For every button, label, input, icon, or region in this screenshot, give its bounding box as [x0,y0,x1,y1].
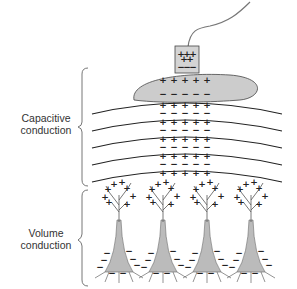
neuron: ++++++++−−−−−−−− [95,177,143,283]
negative-charge: − [108,268,116,278]
negative-charge: − [96,262,104,272]
positive-charge: + [181,75,189,85]
positive-charge: + [181,168,189,178]
negative-charge: − [159,89,167,99]
positive-charge: + [123,199,131,209]
conduction-diagram: +++++−−−+++++−−−−−+++++−−−−−+++++−−−−−++… [0,0,297,289]
neuron: ++++++++−−−−−−−− [139,177,187,283]
negative-charge: − [170,89,178,99]
positive-charge: + [154,179,162,189]
volume-bracket [78,190,88,286]
capacitive-bracket [78,68,88,186]
negative-charge: − [251,268,259,278]
negative-charge: − [163,268,171,278]
negative-charge: − [181,89,189,99]
positive-charge: + [167,199,175,209]
positive-charge: + [192,75,200,85]
positive-charge: + [192,168,200,178]
positive-charge: + [170,168,178,178]
negative-charge: − [192,89,200,99]
neuron: ++++++++−−−−−−−− [227,177,275,283]
negative-charge: − [196,268,204,278]
positive-charge: + [159,75,167,85]
positive-charge: + [237,197,245,207]
positive-charge: + [198,179,206,189]
neuron: ++++++++−−−−−−−− [183,177,231,283]
negative-charge: − [265,260,273,270]
negative-charge: − [207,268,215,278]
positive-charge: + [203,75,211,85]
negative-charge: − [140,262,148,272]
positive-charge: + [255,199,263,209]
positive-charge: + [242,179,250,189]
negative-charge: − [203,89,211,99]
positive-charge: + [211,199,219,209]
positive-charge: + [110,179,118,189]
negative-charge: − [152,268,160,278]
positive-charge: + [193,197,201,207]
electrode-wire [188,2,250,47]
positive-charge: + [149,197,157,207]
negative-charge: − [119,268,127,278]
negative-charge: − [240,268,248,278]
negative-charge: − [228,262,236,272]
negative-charge: − [184,262,192,272]
positive-charge: + [170,75,178,85]
negative-charge: − [189,62,197,72]
positive-charge: + [105,197,113,207]
